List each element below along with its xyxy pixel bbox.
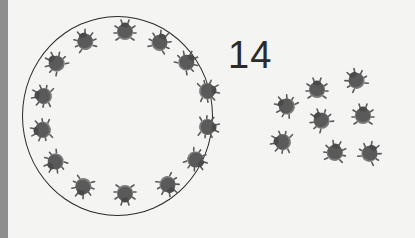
ladybug-icon bbox=[196, 115, 220, 139]
ladybug-icon bbox=[196, 79, 220, 103]
ladybug-icon bbox=[31, 84, 55, 108]
count-label: 14 bbox=[228, 36, 272, 74]
ladybug-icon bbox=[270, 130, 294, 154]
ladybug-icon bbox=[71, 175, 95, 199]
ladybug-icon bbox=[351, 103, 375, 127]
ladybug-icon bbox=[156, 173, 180, 197]
ladybug-icon bbox=[323, 140, 347, 164]
ladybug-icon bbox=[344, 68, 368, 92]
ladybug-icon bbox=[73, 29, 97, 53]
left-edge-bar bbox=[0, 0, 8, 238]
ladybug-icon bbox=[305, 77, 329, 101]
ladybug-icon bbox=[113, 19, 137, 43]
ladybug-icon bbox=[358, 141, 382, 165]
ladybug-icon bbox=[175, 50, 199, 74]
ladybug-icon bbox=[274, 94, 298, 118]
ladybug-icon bbox=[43, 150, 67, 174]
ladybug-icon bbox=[113, 182, 137, 206]
ladybug-icon bbox=[30, 118, 54, 142]
ladybug-icon bbox=[184, 148, 208, 172]
ladybug-icon bbox=[44, 51, 68, 75]
ladybug-icon bbox=[309, 108, 333, 132]
ladybug-icon bbox=[148, 30, 172, 54]
